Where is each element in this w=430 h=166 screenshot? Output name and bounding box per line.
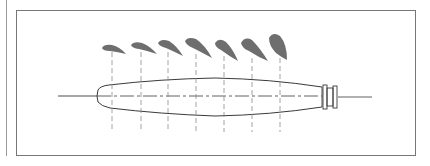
airfoil-section-1	[102, 45, 126, 54]
airfoil-section-2	[131, 42, 157, 54]
airfoil-section-3	[158, 40, 183, 56]
blade-planform-outline	[97, 78, 322, 116]
airfoil-section-5	[215, 40, 238, 61]
airfoil-section-6	[241, 39, 268, 61]
airfoil-section-4	[185, 38, 212, 58]
station-lines	[112, 52, 280, 132]
propeller-blade-diagram	[0, 0, 430, 166]
hub-flange	[322, 85, 337, 109]
airfoil-section-7	[269, 34, 287, 60]
airfoil-sections	[102, 34, 287, 61]
blade-centerline	[58, 96, 372, 97]
